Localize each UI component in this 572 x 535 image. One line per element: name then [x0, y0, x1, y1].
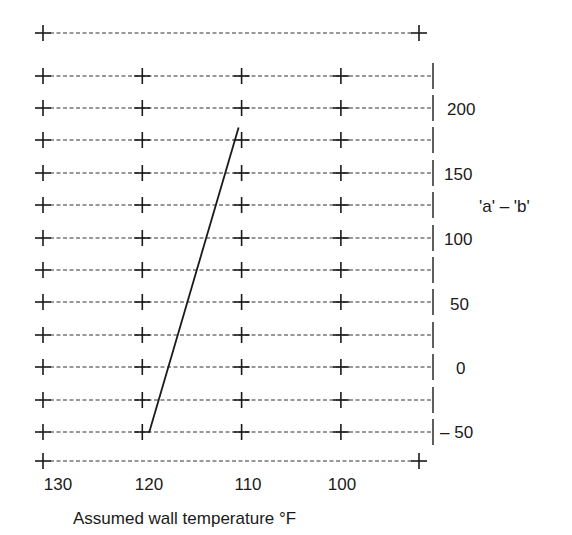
chart-canvas [0, 0, 572, 535]
grid-rows [35, 63, 433, 445]
y-tick-label-minus-50: – 50 [440, 424, 473, 441]
y-tick-label-200: 200 [447, 101, 475, 118]
y-tick-label-50: 50 [450, 296, 469, 313]
x-tick-label-130: 130 [44, 476, 72, 493]
x-tick-label-110: 110 [234, 476, 261, 493]
x-axis-title: Assumed wall temperature °F [73, 510, 296, 527]
y-axis-title: 'a' – 'b' [479, 198, 530, 215]
x-tick-label-100: 100 [328, 476, 356, 493]
y-tick-label-150: 150 [444, 166, 472, 183]
y-tick-label-0: 0 [456, 360, 465, 377]
chart-frame [35, 25, 427, 469]
y-tick-label-100: 100 [444, 231, 472, 248]
x-tick-label-120: 120 [135, 476, 163, 493]
